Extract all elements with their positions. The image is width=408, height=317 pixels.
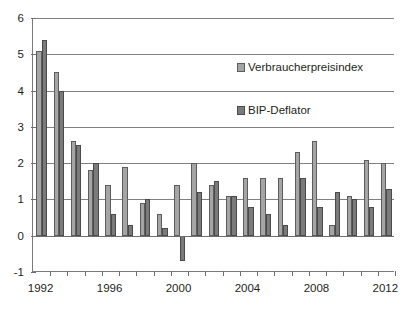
x-axis-tick-label: 2000 — [166, 282, 192, 294]
y-tick-mark-3 — [31, 127, 36, 128]
x-axis-tick-label: 1996 — [97, 282, 123, 294]
y-tick-mark-6 — [31, 18, 36, 19]
x-tick-mark — [257, 271, 258, 276]
gridline-6 — [33, 18, 394, 19]
legend-swatch-icon — [237, 106, 245, 115]
y-axis-tick-label: 4 — [0, 85, 24, 97]
bar-deflator-2002 — [214, 181, 219, 235]
bar-deflator-1995 — [93, 163, 98, 236]
y-axis-tick-label: -1 — [0, 266, 24, 278]
y-tick-mark--1 — [31, 272, 36, 273]
x-tick-mark — [343, 271, 344, 276]
y-tick-mark-4 — [31, 91, 36, 92]
legend-entry-deflator: BIP-Deflator — [237, 104, 311, 116]
gridline-5 — [33, 54, 394, 55]
bar-deflator-2009 — [335, 192, 340, 236]
y-axis-tick-label: 3 — [0, 121, 24, 133]
zero-line — [33, 236, 394, 237]
bar-deflator-1992 — [42, 40, 47, 236]
x-tick-mark — [326, 271, 327, 276]
x-tick-mark — [378, 271, 379, 276]
y-tick-mark-5 — [31, 54, 36, 55]
gridline-3 — [33, 127, 394, 128]
x-tick-mark — [292, 271, 293, 276]
y-axis-tick-label: 5 — [0, 48, 24, 60]
gridline-4 — [33, 91, 394, 92]
bar-deflator-2007 — [300, 178, 305, 236]
bar-deflator-1998 — [145, 199, 150, 235]
x-axis-tick-label: 2012 — [373, 282, 399, 294]
x-tick-mark — [85, 271, 86, 276]
x-axis-tick-label: 2008 — [304, 282, 330, 294]
bar-deflator-2008 — [317, 207, 322, 236]
y-tick-mark-2 — [31, 163, 36, 164]
x-axis-tick-label: 1992 — [28, 282, 54, 294]
plot-area — [32, 18, 394, 272]
bar-deflator-2005 — [266, 214, 271, 236]
bar-deflator-2000 — [180, 236, 185, 261]
bar-deflator-1993 — [59, 91, 64, 236]
bar-deflator-1999 — [162, 228, 167, 235]
y-axis-tick-label: 2 — [0, 157, 24, 169]
bar-deflator-2010 — [352, 199, 357, 235]
legend-entry-cpi: Verbraucherpreisindex — [237, 61, 363, 73]
x-tick-mark — [240, 271, 241, 276]
bar-deflator-1996 — [111, 214, 116, 236]
inflation-bar-chart: 199219962000200420082012 Verbraucherprei… — [0, 0, 408, 317]
x-tick-mark — [309, 271, 310, 276]
x-tick-mark — [274, 271, 275, 276]
bar-deflator-1994 — [76, 145, 81, 236]
y-tick-mark-1 — [31, 199, 36, 200]
bar-deflator-2003 — [231, 196, 236, 236]
x-tick-mark — [205, 271, 206, 276]
bar-deflator-2004 — [248, 207, 253, 236]
legend-swatch-icon — [237, 63, 245, 72]
bar-deflator-1997 — [128, 225, 133, 236]
legend-label: Verbraucherpreisindex — [248, 61, 363, 73]
x-axis-tick-label: 2004 — [235, 282, 261, 294]
bar-deflator-2012 — [386, 189, 391, 236]
x-tick-mark — [171, 271, 172, 276]
y-axis-tick-label: 0 — [0, 230, 24, 242]
x-tick-mark — [67, 271, 68, 276]
bar-cpi-2000 — [174, 185, 179, 236]
y-axis-tick-label: 6 — [0, 12, 24, 24]
x-tick-mark — [188, 271, 189, 276]
legend-label: BIP-Deflator — [248, 104, 311, 116]
y-axis-tick-label: 1 — [0, 193, 24, 205]
x-tick-mark — [223, 271, 224, 276]
x-tick-mark — [154, 271, 155, 276]
bar-deflator-2006 — [283, 225, 288, 236]
gridline-2 — [33, 163, 394, 164]
x-tick-mark — [395, 271, 396, 276]
x-tick-mark — [361, 271, 362, 276]
x-tick-mark — [102, 271, 103, 276]
x-tick-mark — [119, 271, 120, 276]
x-tick-mark — [136, 271, 137, 276]
bar-deflator-2011 — [369, 207, 374, 236]
bar-deflator-2001 — [197, 192, 202, 236]
x-tick-mark — [50, 271, 51, 276]
